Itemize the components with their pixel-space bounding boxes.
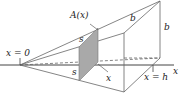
axis-label: x	[173, 66, 178, 76]
origin-label: x = 0	[6, 48, 30, 58]
solid-diagram: x = 0 x = h x A(x) s s x b b	[0, 0, 181, 96]
area-label: A(x)	[69, 10, 89, 20]
right-edge-label: b	[164, 22, 170, 32]
end-label: x = h	[144, 72, 168, 82]
x-marker-label: x	[106, 73, 111, 83]
side-top-label: s	[79, 34, 84, 44]
area-pointer	[90, 24, 98, 30]
top-edge-label: b	[130, 13, 136, 23]
side-bottom-label: s	[72, 67, 77, 77]
